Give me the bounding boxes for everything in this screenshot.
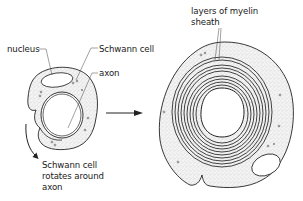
axon-core	[201, 88, 244, 137]
transition-arrow	[106, 110, 143, 116]
label-axon: axon	[99, 68, 119, 78]
label-myelin-line2: sheath	[191, 17, 220, 27]
myelinated-axon-figure	[159, 28, 293, 188]
label-rotation-line1: Schwann cell	[42, 160, 97, 170]
arrow-right-icon	[134, 110, 143, 116]
label-rotation-line2: rotates around	[42, 171, 104, 181]
label-nucleus: nucleus	[7, 44, 40, 54]
label-rotation-line3: axon	[42, 182, 62, 192]
schwann-cell-figure	[26, 48, 98, 159]
label-schwann-cell: Schwann cell	[99, 44, 154, 54]
rotation-arrow	[26, 124, 36, 156]
axon	[41, 92, 83, 138]
label-myelin-line1: layers of myelin	[191, 6, 258, 16]
